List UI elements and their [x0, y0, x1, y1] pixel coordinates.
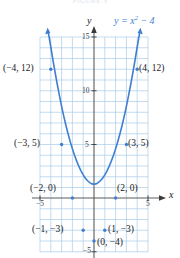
- annotation--4-12: (−4, 12): [3, 64, 34, 74]
- x-tick--5: −5: [36, 200, 44, 208]
- annotation-2-0: (2, 0): [117, 184, 138, 194]
- annotation--2-0: (−2, 0): [30, 184, 56, 194]
- annotation-3-5: (3, 5): [128, 139, 149, 149]
- annotation-1--3: (1, −3): [108, 225, 134, 235]
- point--1--3: [82, 229, 85, 232]
- y-tick--5: −5: [83, 247, 91, 255]
- y-tick-5: 5: [85, 141, 89, 149]
- x-axis-label: x: [169, 190, 173, 200]
- point-0--4: [92, 239, 95, 242]
- annotation--1--3: (−1, −3): [32, 225, 63, 235]
- point--2-0: [71, 196, 74, 199]
- equation-tail: − 4: [138, 15, 155, 26]
- curve-arrow-left: [45, 28, 50, 34]
- figure-container: FIGURE 3: [0, 0, 180, 258]
- point-2-0: [114, 196, 117, 199]
- curve-arrow-right: [138, 28, 143, 34]
- x-tick-5: 5: [146, 200, 150, 208]
- annotation--3-5: (−3, 5): [14, 139, 40, 149]
- y-tick-15: 15: [82, 33, 90, 41]
- annotation-4-12: (4, 12): [139, 64, 164, 74]
- y-axis-arrow: [91, 26, 97, 33]
- y-axis-label: y: [87, 16, 91, 26]
- point--4-12: [49, 68, 52, 71]
- x-axis-arrow: [159, 195, 166, 200]
- point--3-5: [60, 143, 63, 146]
- coordinate-plane: [0, 0, 180, 258]
- annotation-0--4: (0, −4): [97, 238, 123, 248]
- equation-text: y = x: [114, 15, 135, 26]
- equation-label: y = x2 − 4: [114, 15, 155, 26]
- point-1--3: [103, 229, 106, 232]
- y-tick-10: 10: [82, 87, 90, 95]
